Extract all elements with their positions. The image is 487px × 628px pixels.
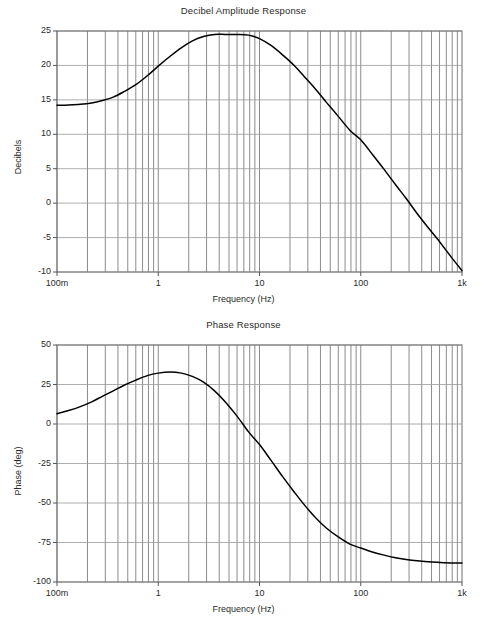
y-tick-label: 15 [41, 94, 51, 104]
y-tick-label: 25 [41, 379, 51, 389]
x-tick-label: 1 [128, 588, 188, 598]
x-tick-label: 10 [230, 278, 290, 288]
y-tick-label: 50 [41, 339, 51, 349]
y-tick-label: -10 [38, 266, 51, 276]
x-tick-label: 10 [230, 588, 290, 598]
chart-phase: Phase Response Phase (deg) Frequency (Hz… [0, 314, 487, 628]
y-tick-label: -50 [38, 497, 51, 507]
y-tick-label: -5 [43, 232, 51, 242]
x-tick-label: 1k [432, 278, 487, 288]
plot-area-amplitude [0, 0, 487, 314]
chart-amplitude: Decibel Amplitude Response Decibels Freq… [0, 0, 487, 314]
y-tick-label: 10 [41, 128, 51, 138]
y-tick-label: 5 [46, 163, 51, 173]
x-tick-label: 100 [331, 588, 391, 598]
y-tick-label: -100 [33, 576, 51, 586]
y-tick-label: 20 [41, 59, 51, 69]
y-tick-label: -25 [38, 458, 51, 468]
x-tick-label: 1k [432, 588, 487, 598]
x-tick-label: 100 [331, 278, 391, 288]
y-tick-label: 25 [41, 25, 51, 35]
plot-area-phase [0, 314, 487, 628]
x-tick-label: 100m [27, 588, 87, 598]
x-axis-label-amplitude: Frequency (Hz) [0, 294, 487, 304]
figure-page: Decibel Amplitude Response Decibels Freq… [0, 0, 487, 628]
x-tick-label: 100m [27, 278, 87, 288]
y-tick-label: -75 [38, 537, 51, 547]
y-tick-label: 0 [46, 197, 51, 207]
x-axis-label-phase: Frequency (Hz) [0, 604, 487, 614]
x-tick-label: 1 [128, 278, 188, 288]
y-tick-label: 0 [46, 418, 51, 428]
